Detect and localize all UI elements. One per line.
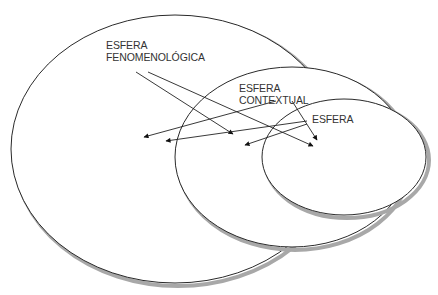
label-esfera-contextual: ESFERA CONTEXTUAL xyxy=(239,83,309,106)
label-esfera-inner: ESFERA xyxy=(312,114,353,126)
label-contextual-line2: CONTEXTUAL xyxy=(239,95,309,107)
diagram-canvas xyxy=(0,0,438,295)
label-esfera-fenomenologica: ESFERA FENOMENOLÓGICA xyxy=(106,40,205,63)
label-fenomenologica-line2: FENOMENOLÓGICA xyxy=(106,52,205,64)
label-fenomenologica-line1: ESFERA xyxy=(106,40,205,52)
label-inner-line1: ESFERA xyxy=(312,114,353,126)
label-contextual-line1: ESFERA xyxy=(239,83,309,95)
